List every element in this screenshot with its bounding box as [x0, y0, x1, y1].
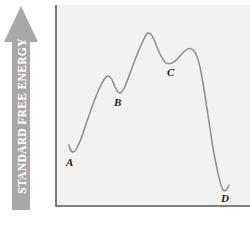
energy-profile-figure: STANDARD FREE ENERGY A B C D: [0, 0, 250, 227]
y-axis-arrow-container: STANDARD FREE ENERGY: [0, 0, 46, 227]
up-arrow-icon: [0, 0, 46, 227]
free-energy-curve: [69, 33, 229, 191]
axis-lines: [56, 5, 250, 206]
plot-svg: [55, 5, 250, 207]
plot-area: A B C D: [55, 5, 250, 207]
